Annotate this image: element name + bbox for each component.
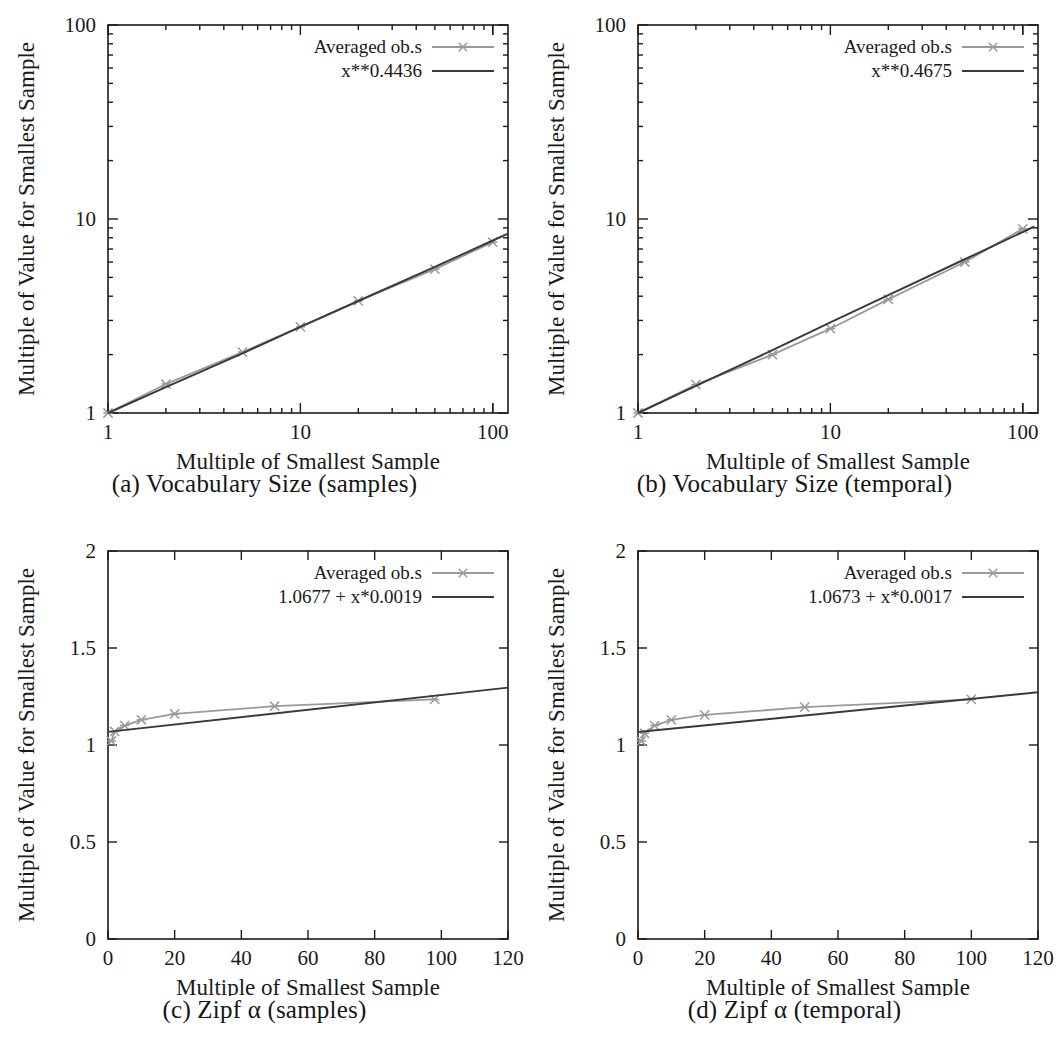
y-tick-label: 2 [86, 539, 97, 563]
legend: Averaged ob.sx**0.4436 [314, 36, 494, 81]
y-tick-label: 2 [616, 539, 627, 563]
panel-c: 02040608010012000.511.52Multiple of Smal… [0, 526, 529, 1052]
legend-marker [989, 43, 997, 51]
fit-line [638, 692, 1038, 732]
y-tick-label: 0 [86, 927, 97, 951]
panel-a-plot: 110100110100Multiple of Smallest SampleM… [0, 0, 529, 470]
y-tick-label: 1 [86, 401, 97, 425]
legend-marker [989, 569, 997, 577]
panel-b: 110100110100Multiple of Smallest SampleM… [530, 0, 1059, 526]
fit-line [108, 234, 508, 413]
x-tick-label: 1 [633, 420, 644, 444]
panel-c-caption: (c) Zipf α (samples) [0, 996, 529, 1024]
legend-label: Averaged ob.s [314, 562, 422, 583]
data-markers [107, 695, 440, 746]
y-tick-label: 100 [595, 13, 627, 37]
legend-label: Averaged ob.s [844, 36, 952, 57]
legend-marker [459, 43, 467, 51]
x-axis-label: Multiple of Smallest Sample [706, 975, 970, 996]
legend: Averaged ob.sx**0.4675 [844, 36, 1024, 81]
y-tick-label: 100 [65, 13, 97, 37]
y-axis-label: Multiple of Value for Smallest Sample [14, 568, 39, 922]
tick-labels: 110100110100 [595, 13, 1039, 444]
panel-a: 110100110100Multiple of Smallest SampleM… [0, 0, 529, 526]
fit-line [638, 226, 1034, 413]
y-tick-label: 1 [616, 733, 627, 757]
y-tick-label: 1.5 [70, 636, 96, 660]
x-tick-label: 80 [894, 946, 915, 970]
plot-frame [638, 25, 1038, 413]
x-tick-label: 40 [231, 946, 252, 970]
y-tick-label: 0.5 [600, 830, 626, 854]
panel-d-caption: (d) Zipf α (temporal) [530, 996, 1059, 1024]
data-point-marker [650, 721, 659, 730]
y-tick-label: 10 [605, 207, 626, 231]
legend: Averaged ob.s1.0673 + x*0.0017 [808, 562, 1024, 607]
y-axis-label: Multiple of Value for Smallest Sample [544, 568, 569, 922]
data-point-marker [170, 709, 179, 718]
data-point-marker [800, 703, 809, 712]
x-tick-label: 0 [103, 946, 114, 970]
x-tick-label: 120 [492, 946, 524, 970]
fit-line [108, 688, 508, 732]
plot-frame [638, 551, 1038, 939]
legend-label: Averaged ob.s [314, 36, 422, 57]
axis-ticks [108, 551, 508, 939]
x-tick-label: 100 [426, 946, 458, 970]
data-point-marker [270, 702, 279, 711]
data-point-marker [137, 715, 146, 724]
y-tick-label: 1.5 [600, 636, 626, 660]
x-tick-label: 100 [1007, 420, 1039, 444]
y-tick-label: 10 [75, 207, 96, 231]
x-axis-label: Multiple of Smallest Sample [706, 449, 970, 470]
x-tick-label: 80 [364, 946, 385, 970]
y-tick-label: 0.5 [70, 830, 96, 854]
x-tick-label: 20 [164, 946, 185, 970]
x-tick-label: 10 [290, 420, 311, 444]
x-axis-label: Multiple of Smallest Sample [176, 449, 440, 470]
x-tick-label: 60 [298, 946, 319, 970]
axis-ticks [638, 25, 1038, 413]
y-tick-label: 1 [616, 401, 627, 425]
panel-d-plot: 02040608010012000.511.52Multiple of Smal… [530, 526, 1059, 996]
data-point-marker [667, 715, 676, 724]
legend: Averaged ob.s1.0677 + x*0.0019 [278, 562, 494, 607]
x-tick-label: 120 [1022, 946, 1054, 970]
data-markers [633, 224, 1027, 417]
plot-frame [108, 25, 508, 413]
legend-label: 1.0673 + x*0.0017 [808, 586, 952, 607]
x-tick-label: 40 [761, 946, 782, 970]
y-axis-label: Multiple of Value for Smallest Sample [14, 42, 39, 396]
x-tick-label: 60 [828, 946, 849, 970]
legend-label: 1.0677 + x*0.0019 [278, 586, 422, 607]
data-point-marker [700, 710, 709, 719]
y-tick-label: 0 [616, 927, 627, 951]
x-tick-label: 20 [694, 946, 715, 970]
figure-grid: 110100110100Multiple of Smallest SampleM… [0, 0, 1059, 1052]
x-tick-label: 100 [956, 946, 988, 970]
panel-c-plot: 02040608010012000.511.52Multiple of Smal… [0, 526, 529, 996]
legend-label: x**0.4675 [871, 60, 952, 81]
plot-frame [108, 551, 508, 939]
axis-ticks [108, 25, 508, 413]
x-axis-label: Multiple of Smallest Sample [176, 975, 440, 996]
y-tick-label: 1 [86, 733, 97, 757]
tick-labels: 110100110100 [65, 13, 509, 444]
panel-a-caption: (a) Vocabulary Size (samples) [0, 470, 529, 498]
panel-b-caption: (b) Vocabulary Size (temporal) [530, 470, 1059, 498]
legend-label: Averaged ob.s [844, 562, 952, 583]
x-tick-label: 0 [633, 946, 644, 970]
x-tick-label: 10 [820, 420, 841, 444]
y-axis-label: Multiple of Value for Smallest Sample [544, 42, 569, 396]
legend-label: x**0.4436 [341, 60, 422, 81]
x-tick-label: 1 [103, 420, 114, 444]
axis-ticks [638, 551, 1038, 939]
data-point-marker [826, 324, 835, 333]
x-tick-label: 100 [477, 420, 509, 444]
panel-d: 02040608010012000.511.52Multiple of Smal… [530, 526, 1059, 1052]
panel-b-plot: 110100110100Multiple of Smallest SampleM… [530, 0, 1059, 470]
legend-marker [459, 569, 467, 577]
